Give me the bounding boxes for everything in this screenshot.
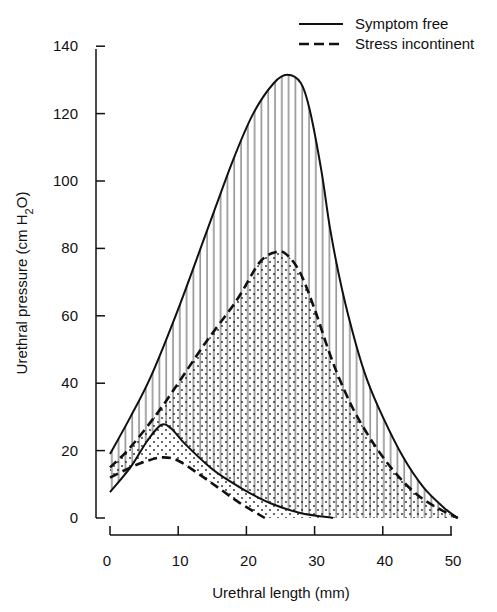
y-tick-label: 60 (61, 307, 78, 324)
x-tick-label: 40 (376, 552, 393, 569)
y-axis-title: Urethral pressure (cm H2O) (13, 192, 35, 375)
legend: Symptom free Stress incontinent (299, 15, 475, 52)
chart-canvas: 020406080100120140 01020304050 Urethral … (0, 0, 497, 612)
x-ticks: 01020304050 (103, 526, 462, 569)
legend-label-stress-incontinent: Stress incontinent (355, 35, 475, 52)
y-tick-label: 0 (70, 509, 78, 526)
y-ticks: 020406080100120140 (53, 37, 105, 526)
x-tick-label: 50 (445, 552, 462, 569)
shaded-regions (110, 75, 458, 518)
y-tick-label: 100 (53, 172, 78, 189)
legend-label-symptom-free: Symptom free (355, 15, 448, 32)
y-tick-label: 120 (53, 105, 78, 122)
x-tick-label: 10 (172, 552, 189, 569)
x-axis-title: Urethral length (mm) (212, 584, 350, 601)
y-tick-label: 40 (61, 374, 78, 391)
y-tick-label: 140 (53, 37, 78, 54)
x-tick-label: 30 (308, 552, 325, 569)
x-tick-label: 20 (240, 552, 257, 569)
y-tick-label: 80 (61, 239, 78, 256)
x-tick-label: 0 (103, 552, 111, 569)
y-tick-label: 20 (61, 442, 78, 459)
